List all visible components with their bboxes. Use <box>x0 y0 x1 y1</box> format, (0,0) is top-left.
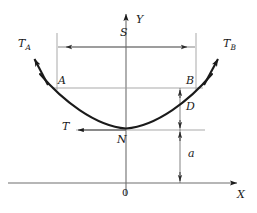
catenary-diagram: TA TB S A B D T N a Y X 0 <box>0 0 257 213</box>
label-y-axis: Y <box>136 14 143 25</box>
label-offset-a: a <box>188 148 195 159</box>
label-sag-d: D <box>186 101 195 112</box>
label-origin: 0 <box>122 188 128 198</box>
label-tension-a: TA <box>18 38 31 49</box>
label-span-s: S <box>120 27 128 38</box>
tension-b-arrow <box>204 59 218 85</box>
label-point-a: A <box>58 75 66 86</box>
diagram-canvas <box>0 0 257 213</box>
label-tension-b: TB <box>223 38 236 49</box>
tension-a-arrow <box>35 59 49 85</box>
label-point-b: B <box>186 75 194 86</box>
label-x-axis: X <box>237 189 245 200</box>
label-point-n: N <box>117 134 127 145</box>
label-tension-horizontal: T <box>62 121 69 132</box>
